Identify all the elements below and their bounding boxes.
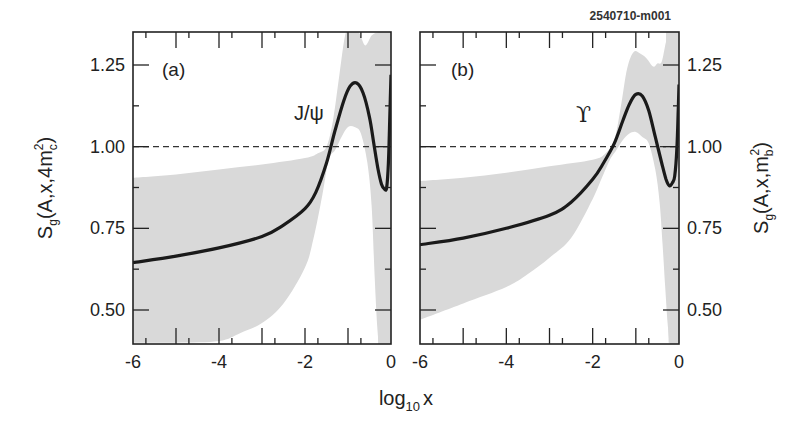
y-tick-label: 1.25 <box>687 55 722 75</box>
panel-a: 0.500.751.001.25 -6-4-20 (a) J/ψ Sg(A,x,… <box>32 16 396 375</box>
x-tick-label: 0 <box>386 352 396 372</box>
figure: 2540710-m001 0.500.751.001.25 -6-4-20 (a… <box>0 0 801 428</box>
panel-b: 0.500.751.001.25 -6-4-20 (b) ϒ Sg(A,x,mb… <box>412 16 776 375</box>
y-axis-title: Sg(A,x,mb2) <box>748 142 776 234</box>
y-tick-label: 1.25 <box>90 55 125 75</box>
x-tick-label: -4 <box>498 352 514 372</box>
y-tick-labels: 0.500.751.001.25 <box>687 55 722 320</box>
x-tick-label: 0 <box>674 352 684 372</box>
uncertainty-band <box>133 29 391 375</box>
x-tick-label: -2 <box>297 352 313 372</box>
y-tick-label: 1.00 <box>90 137 125 157</box>
x-tick-label: -6 <box>125 352 141 372</box>
y-tick-label: 0.50 <box>687 300 722 320</box>
x-tick-label: -6 <box>412 352 428 372</box>
y-tick-label: 0.75 <box>90 218 125 238</box>
x-tick-labels: -6-4-20 <box>125 352 396 372</box>
y-tick-label: 1.00 <box>687 137 722 157</box>
panel-label: (b) <box>451 59 474 80</box>
particle-label: J/ψ <box>294 102 324 124</box>
figure-id-label: 2540710-m001 <box>590 9 672 23</box>
y-tick-label: 0.50 <box>90 300 125 320</box>
y-tick-label: 0.75 <box>687 218 722 238</box>
x-tick-labels: -6-4-20 <box>412 352 684 372</box>
uncertainty-band <box>420 32 679 376</box>
y-tick-labels: 0.500.751.001.25 <box>90 55 125 320</box>
particle-label: ϒ <box>576 102 591 127</box>
x-tick-label: -4 <box>211 352 227 372</box>
panel-label: (a) <box>162 59 185 80</box>
x-axis-title: log10x <box>379 387 433 414</box>
y-axis-title: Sg(A,x,4mc2) <box>32 137 60 239</box>
x-tick-label: -2 <box>585 352 601 372</box>
